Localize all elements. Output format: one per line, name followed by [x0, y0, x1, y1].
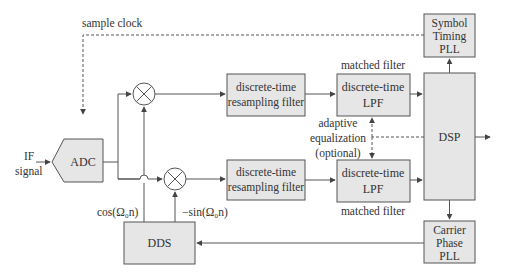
svg-text:discrete-time: discrete-time: [236, 166, 296, 178]
sample-clock-label: sample clock: [82, 17, 143, 30]
if-signal-input: IF signal: [15, 150, 50, 178]
svg-text:DSP: DSP: [438, 130, 460, 144]
svg-text:Phase: Phase: [436, 237, 463, 249]
dsp-block: DSP: [424, 73, 475, 200]
adc-label: ADC: [70, 155, 95, 169]
svg-text:PLL: PLL: [439, 43, 459, 55]
svg-text:discrete-time: discrete-time: [236, 81, 296, 93]
matched-filter-top-label: matched filter: [341, 59, 405, 71]
svg-text:Timing: Timing: [433, 30, 467, 43]
svg-text:adaptive: adaptive: [319, 117, 358, 130]
svg-text:LPF: LPF: [363, 96, 384, 110]
svg-text:Symbol: Symbol: [432, 17, 468, 30]
svg-text:discrete-time: discrete-time: [342, 166, 405, 180]
resampling-filter-top: discrete-time resampling filter: [227, 74, 305, 116]
adc-block: ADC: [52, 139, 103, 182]
svg-text:equalization: equalization: [310, 132, 366, 145]
resampling-filter-bottom: discrete-time resampling filter: [227, 160, 305, 200]
if-label: IF: [24, 150, 34, 162]
svg-text:LPF: LPF: [363, 182, 384, 196]
lpf-top: matched filter discrete-time LPF: [337, 59, 410, 116]
dds-block: DDS: [124, 222, 195, 264]
svg-text:resampling filter: resampling filter: [228, 181, 304, 194]
svg-text:discrete-time: discrete-time: [342, 80, 405, 94]
symbol-timing-pll-block: Symbol Timing PLL: [424, 14, 475, 57]
carrier-phase-pll-block: Carrier Phase PLL: [424, 221, 475, 263]
svg-text:(optional): (optional): [315, 147, 361, 160]
sin-label: −sin(Ω₀n): [182, 206, 228, 219]
svg-text:DDS: DDS: [147, 236, 171, 250]
matched-filter-bottom-label: matched filter: [341, 205, 405, 217]
adaptive-equalization-path: adaptive equalization (optional): [310, 117, 424, 160]
svg-text:PLL: PLL: [439, 250, 459, 262]
svg-text:Carrier: Carrier: [433, 224, 466, 236]
mixer-top: [133, 83, 155, 105]
cos-label: cos(Ω₀n): [97, 206, 138, 219]
mixer-bottom: [164, 168, 186, 190]
lpf-bottom: discrete-time LPF matched filter: [337, 160, 410, 217]
svg-text:resampling filter: resampling filter: [228, 96, 304, 109]
receiver-block-diagram: sample clock IF signal ADC cos(Ω₀n) −sin…: [0, 0, 506, 277]
signal-label: signal: [15, 165, 42, 178]
